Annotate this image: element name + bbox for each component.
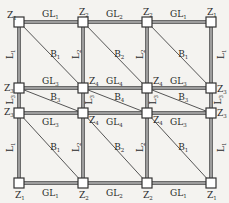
brace-label: B3 (178, 92, 189, 103)
brace-members (19, 22, 211, 183)
node-square (142, 83, 152, 93)
beam-label: GL3 (170, 76, 187, 87)
beam-label: GL4 (106, 76, 123, 87)
beam-label: GL1 (170, 188, 187, 199)
node-square (78, 83, 88, 93)
column-label: L2 (135, 143, 146, 152)
column-label: L2 (71, 50, 82, 59)
beam-label: GL3 (42, 76, 59, 87)
column-label: L3 (148, 95, 159, 105)
node-square (142, 108, 152, 118)
node-label: Z4 (89, 76, 99, 87)
beam-label: GL3 (42, 117, 59, 128)
brace-label: B4 (114, 92, 125, 103)
brace-label: B2 (114, 142, 124, 153)
column-label: L1 (216, 143, 227, 152)
node-label: Z2 (143, 7, 153, 18)
brace-label: B1 (50, 49, 60, 60)
beam-label: GL4 (106, 117, 123, 128)
node-square (206, 178, 216, 188)
column-label: L1 (5, 50, 16, 59)
node-square (78, 108, 88, 118)
column-label: L1 (216, 50, 227, 59)
column-label: L3 (5, 95, 16, 105)
node-label: Z1 (7, 10, 17, 21)
node-label: Z2 (79, 190, 89, 201)
beam-label: GL2 (106, 9, 123, 20)
node-square (78, 178, 88, 188)
node-square (206, 83, 216, 93)
node-label: Z4 (153, 115, 163, 126)
node-square (14, 83, 24, 93)
node-label: Z3 (4, 83, 14, 94)
node-label: Z3 (217, 84, 227, 95)
beam-label: GL3 (170, 117, 187, 128)
node-square (142, 178, 152, 188)
beam-label: GL2 (106, 188, 123, 199)
node-square (206, 108, 216, 118)
column-label: L3 (213, 95, 224, 105)
column-label: L3 (84, 95, 95, 105)
node-label: Z1 (207, 7, 217, 18)
column-label: L1 (5, 143, 16, 152)
brace-label: B1 (178, 142, 188, 153)
member-labels: B1B2B1B3B4B3B1B2B1GL1GL2GL1GL3GL4GL3GL3G… (4, 7, 227, 201)
structural-grid-diagram: B1B2B1B3B4B3B1B2B1GL1GL2GL1GL3GL4GL3GL3G… (0, 0, 229, 203)
node-label: Z4 (89, 115, 99, 126)
beam-label: GL1 (170, 9, 187, 20)
brace-label: B1 (178, 49, 188, 60)
node-label: Z2 (143, 190, 153, 201)
brace-label: B1 (50, 142, 60, 153)
node-square (206, 17, 216, 27)
node-label: Z1 (15, 190, 25, 201)
node-square (142, 17, 152, 27)
column-label: L2 (135, 50, 146, 59)
node-label: Z1 (207, 190, 217, 201)
node-label: Z3 (4, 107, 14, 118)
beam-label: GL1 (42, 188, 59, 199)
beam-label: GL1 (42, 9, 59, 20)
node-label: Z3 (217, 108, 227, 119)
column-label: L2 (71, 143, 82, 152)
beam-members (19, 22, 211, 183)
node-label: Z2 (79, 7, 89, 18)
node-label: Z4 (153, 76, 163, 87)
node-square (14, 108, 24, 118)
brace-label: B2 (114, 49, 124, 60)
brace-label: B3 (50, 92, 61, 103)
node-square (78, 17, 88, 27)
node-square (14, 178, 24, 188)
